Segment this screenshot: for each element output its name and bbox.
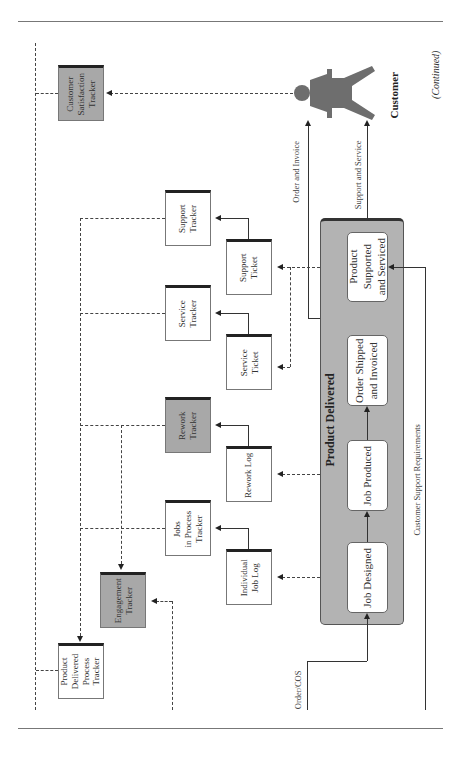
customer-actor [292, 66, 382, 121]
order-cos-up [367, 619, 368, 661]
group-title: Product Delivered [322, 370, 340, 470]
doc-rework-tracker: Rework Tracker [165, 397, 211, 453]
process-label: Product Supported and Serviced [347, 238, 388, 295]
process-order-shipped: Order Shipped and Invoiced [347, 335, 388, 406]
arrow-left-icon [277, 471, 283, 477]
order-cos-label: Order/COS [292, 670, 306, 710]
customer-to-satisfaction-dashed [110, 93, 293, 94]
doc-product-delivered-process-tracker: Product Delivered Process Tracker [58, 643, 104, 699]
process-label: Order Shipped and Invoiced [354, 338, 382, 402]
doc-individual-job-log: Individual Job Log [226, 549, 272, 605]
arrow-up-icon [364, 511, 370, 517]
jobs-tracker-dash [80, 528, 165, 529]
rework-tracker-dash [80, 425, 165, 426]
support-ticket-up [248, 218, 249, 239]
process-label: Job Designed [361, 548, 375, 608]
doc-label: Support Tracker [177, 205, 199, 234]
flow-label: Order and Invoice [292, 141, 302, 203]
order-cos-horizontal [307, 661, 367, 662]
process-label: Job Produced [361, 446, 375, 506]
arrow-left-icon [277, 264, 283, 270]
service-ticket-to-tracker [220, 313, 248, 314]
arrow-left-icon [388, 264, 394, 270]
produced-to-shipped [367, 412, 368, 440]
doc-service-tracker: Service Tracker [165, 285, 211, 341]
support-req-to-process [394, 267, 425, 268]
arrow-left-icon [277, 574, 283, 580]
branch-to-service-ticket [282, 367, 290, 368]
continued-label: (Continued) [426, 50, 446, 100]
process-product-supported: Product Supported and Serviced [347, 232, 388, 302]
support-and-service-label: Support and Service [351, 140, 365, 210]
top-rule [18, 21, 443, 22]
ticket-branch [290, 267, 291, 367]
person-icon [292, 66, 382, 121]
customer-support-requirements-label: Customer Support Requirements [411, 420, 425, 540]
doc-label: Rework Tracker [177, 412, 199, 441]
support-ticket-to-tracker [220, 218, 248, 219]
arrow-down-icon [118, 564, 124, 570]
arrow-up-icon [364, 120, 370, 126]
doc-engagement-tracker: Engagement Tracker [100, 572, 146, 628]
process-job-produced: Job Produced [347, 440, 388, 511]
engagement-dashed-line [172, 601, 173, 710]
arrow-left-icon [151, 598, 157, 604]
arrow-up-icon [364, 613, 370, 619]
order-and-invoice-label: Order and Invoice [290, 142, 304, 202]
rework-log-to-tracker [220, 425, 248, 426]
designed-to-produced [367, 517, 368, 542]
swimlane-boundary-left [35, 43, 36, 710]
doc-label: Support Ticket [238, 254, 260, 283]
doc-customer-satisfaction-tracker: Customer Satisfaction Tracker [58, 65, 104, 121]
arrow-down-icon [77, 636, 83, 642]
tracker-trunk [80, 218, 81, 636]
job-log-to-tracker [220, 528, 248, 529]
group-title-text: Product Delivered [324, 373, 338, 466]
doc-support-tracker: Support Tracker [165, 190, 211, 246]
job-log-up [248, 528, 249, 549]
continued-text: (Continued) [430, 51, 442, 99]
flow-label: Order/COS [294, 671, 304, 710]
support-service-line [367, 124, 368, 232]
doc-label: Individual Job Log [238, 560, 260, 597]
arrow-left-icon [215, 310, 221, 316]
satisfaction-to-boundary [36, 93, 58, 94]
arrow-left-icon [215, 215, 221, 221]
order-cos-line [307, 661, 308, 710]
flow-label: Customer Support Requirements [413, 424, 423, 535]
process-job-designed: Job Designed [347, 542, 388, 613]
arrow-up-icon [305, 120, 311, 126]
arrow-left-icon [215, 525, 221, 531]
bottom-rule [18, 728, 443, 729]
flow-label: Support and Service [353, 141, 363, 210]
arrow-up-icon [364, 406, 370, 412]
doc-label: Service Tracker [177, 300, 199, 328]
doc-label: Service Ticket [238, 350, 260, 377]
customer-label-text: Customer [388, 72, 401, 118]
doc-service-ticket: Service Ticket [226, 334, 272, 390]
rework-log-up [248, 425, 249, 446]
doc-support-ticket: Support Ticket [226, 239, 272, 295]
rework-to-engagement [121, 425, 122, 564]
doc-rework-log: Rework Log [226, 446, 272, 502]
service-ticket-up [248, 313, 249, 334]
group-to-individual-job-log [282, 577, 320, 578]
arrow-left-icon [277, 364, 283, 370]
customer-label: Customer [384, 70, 404, 120]
arrow-left-icon [215, 422, 221, 428]
doc-label: Rework Log [244, 452, 255, 497]
doc-label: Product Delivered Process Tracker [59, 654, 102, 689]
doc-label: Jobs in Process Tracker [172, 511, 204, 548]
doc-label: Customer Satisfaction Tracker [65, 73, 97, 116]
process-tracker-to-boundary [36, 670, 58, 671]
service-tracker-dash [80, 313, 165, 314]
engagement-inbound-dash [156, 601, 172, 602]
group-to-rework-log [282, 474, 320, 475]
support-tracker-dash [80, 218, 165, 219]
arrow-left-icon [106, 90, 112, 96]
doc-label: Engagement Tracker [112, 579, 134, 624]
order-invoice-line [308, 124, 309, 318]
doc-jobs-in-process-tracker: Jobs in Process Tracker [165, 500, 211, 556]
customer-support-req-line [425, 267, 426, 710]
group-to-support-ticket [282, 267, 320, 268]
